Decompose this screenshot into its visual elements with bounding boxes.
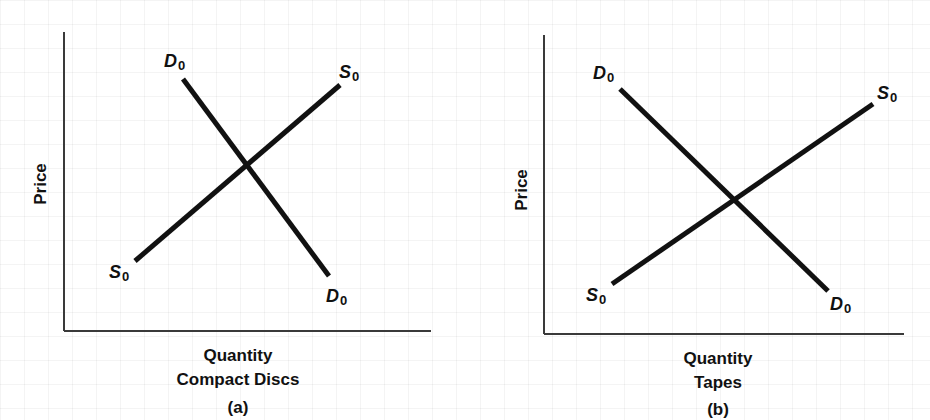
panel-b-demand-curve-d0 xyxy=(620,89,828,291)
panel-a-tag: (a) xyxy=(228,398,249,417)
supply-demand-diagrams: D0 D0 S0 S0 Price Quantity Compact Discs… xyxy=(0,0,930,420)
panel-a-supply-curve-s0 xyxy=(135,85,340,261)
panel-a-x-axis-title: Quantity xyxy=(204,346,273,365)
panel-b-x-axis-subtitle: Tapes xyxy=(694,373,742,392)
panel-a-compact-discs: D0 D0 S0 S0 Price Quantity Compact Discs… xyxy=(31,32,431,417)
panel-b-x-axis-title: Quantity xyxy=(684,349,753,368)
panel-b-d0-label-bottom: D0 xyxy=(830,294,851,316)
panel-a-s0-label-top: S0 xyxy=(339,62,359,84)
panel-a-d0-label-bottom: D0 xyxy=(326,286,347,308)
panel-a-s0-label-bottom: S0 xyxy=(109,262,129,284)
panel-b-tapes: D0 D0 S0 S0 Price Quantity Tapes (b) xyxy=(512,35,904,419)
panel-b-y-axis-title: Price xyxy=(512,169,531,211)
panel-b-s0-label-top: S0 xyxy=(877,83,897,105)
panel-a-d0-label-top: D0 xyxy=(164,51,185,73)
panel-a-demand-curve-d0 xyxy=(183,79,329,276)
panel-a-x-axis-subtitle: Compact Discs xyxy=(177,370,300,389)
panel-b-d0-label-top: D0 xyxy=(593,63,614,85)
panel-b-supply-curve-s0 xyxy=(612,104,873,284)
panel-b-tag: (b) xyxy=(707,400,729,419)
panel-b-s0-label-bottom: S0 xyxy=(586,285,606,307)
panel-a-y-axis-title: Price xyxy=(31,163,50,205)
